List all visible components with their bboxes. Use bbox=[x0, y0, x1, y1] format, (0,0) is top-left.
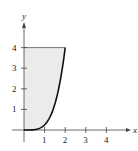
y-tick-label: 1 bbox=[12, 104, 17, 114]
y-axis-label: y bbox=[21, 11, 26, 21]
x-tick-label: 4 bbox=[104, 135, 109, 145]
x-axis-label: x bbox=[132, 125, 137, 135]
x-tick-label: 2 bbox=[63, 135, 67, 145]
x-axis-arrow-icon bbox=[126, 128, 131, 132]
x-tick-label: 3 bbox=[83, 135, 88, 145]
x-tick-label: 1 bbox=[42, 135, 47, 145]
y-tick-label: 4 bbox=[12, 43, 17, 53]
plot-area: 1234 1234 x y bbox=[0, 0, 138, 151]
y-axis-arrow-icon bbox=[22, 22, 26, 28]
y-tick-label: 3 bbox=[12, 63, 17, 73]
y-tick-label: 2 bbox=[12, 84, 17, 94]
